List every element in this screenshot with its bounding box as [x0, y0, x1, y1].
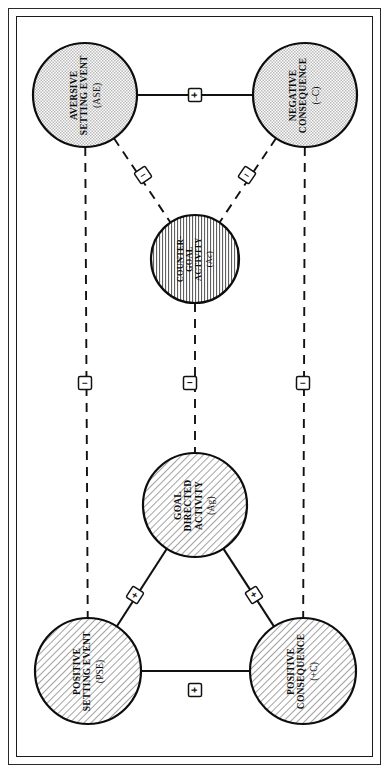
edge-sign-box-ase-pse: [78, 376, 91, 389]
node-circle-pc: [250, 618, 356, 724]
edge-sign-box-cga-gda: [184, 377, 197, 390]
connector-box-layer: [78, 89, 309, 697]
node-circle-pse: [35, 618, 141, 724]
edge-sign-box-pse-pc: [189, 684, 202, 697]
node-circle-ase: [33, 43, 137, 147]
node-circle-nc: [253, 43, 357, 147]
edge-sign-box-nc-cga: [238, 166, 256, 184]
node-circle-cga: [151, 215, 239, 303]
edge-gda-pc: [223, 549, 274, 627]
edge-pse-gda: [117, 549, 167, 627]
node-circle-gda: [143, 453, 247, 557]
diagram-canvas: [0, 0, 389, 773]
edge-sign-box-nc-pc: [296, 376, 309, 389]
edge-sign-box-ase-nc: [189, 89, 202, 102]
edge-sign-box-gda-pc: [245, 586, 263, 604]
figure-container: AVERSIVESETTING EVENT(ASE)NEGATIVECONSEQ…: [0, 0, 389, 773]
edge-sign-box-ase-cga: [134, 166, 152, 184]
